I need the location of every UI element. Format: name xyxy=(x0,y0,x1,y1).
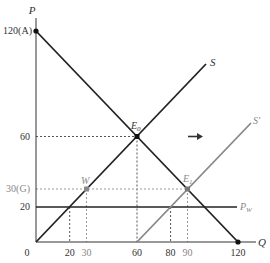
supply-curve-s-prime xyxy=(137,123,251,242)
guide-lines xyxy=(36,137,188,243)
y-tick-20: 20 xyxy=(20,201,30,212)
p-axis-label: P xyxy=(28,4,36,16)
y-tick-120: 120(A) xyxy=(3,25,32,37)
y-tick-60: 60 xyxy=(20,131,30,142)
s-label: S xyxy=(210,56,216,68)
x-tick-90: 90 xyxy=(183,247,193,258)
point-e1 xyxy=(185,187,190,192)
x-tick-30: 30 xyxy=(82,247,92,258)
w-label: W xyxy=(81,175,91,186)
x-tick-120: 120 xyxy=(231,247,246,258)
y-tick-30: 30(G) xyxy=(6,183,30,195)
point-a xyxy=(33,28,38,33)
origin-label: 0 xyxy=(25,247,30,258)
x-tick-60: 60 xyxy=(132,247,142,258)
pw-label: PW xyxy=(239,201,253,214)
supply-demand-diagram: P Q 0 120(A) 60 30(G) 20 20 30 60 80 90 … xyxy=(0,0,270,263)
supply-curve-s xyxy=(36,64,206,242)
point-e0 xyxy=(135,134,140,139)
x-tick-20: 20 xyxy=(65,247,75,258)
point-demand-end xyxy=(235,239,240,244)
point-w xyxy=(84,187,89,192)
x-tick-80: 80 xyxy=(166,247,176,258)
q-axis-label: Q xyxy=(258,236,266,248)
shift-arrow-icon xyxy=(188,133,203,140)
s-prime-label: S' xyxy=(253,115,261,126)
